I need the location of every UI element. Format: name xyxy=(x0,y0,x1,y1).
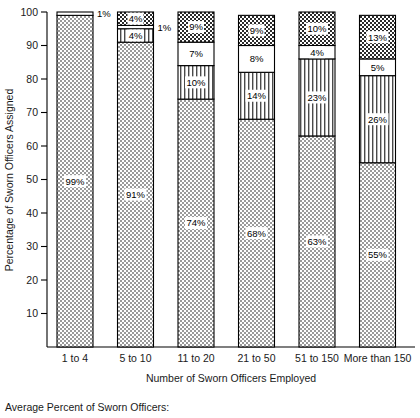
segment-value-label: 8% xyxy=(250,53,264,64)
x-category-label: 51 to 150 xyxy=(295,352,339,364)
segment-value-label: 23% xyxy=(307,92,327,103)
segment-value-label: 9% xyxy=(189,21,203,32)
x-category-label: 1 to 4 xyxy=(62,352,88,364)
segment-value-label: 55% xyxy=(368,249,388,260)
chart-svg: 102030405060708090100 99%1%91%4%1%4%74%1… xyxy=(0,0,420,418)
segment-value-label: 13% xyxy=(368,32,388,43)
segment-value-label-external: 1% xyxy=(97,8,111,19)
segment-value-label: 63% xyxy=(307,236,327,247)
y-tick-label: 80 xyxy=(26,73,38,85)
x-category-label: More than 150 xyxy=(344,352,412,364)
segment-value-label: 74% xyxy=(186,217,206,228)
segment-value-label: 26% xyxy=(368,114,388,125)
y-tick-label: 60 xyxy=(26,140,38,152)
y-tick-label: 10 xyxy=(26,307,38,319)
segment-value-label-external: 1% xyxy=(158,22,172,33)
segment-value-label: 68% xyxy=(247,228,267,239)
y-tick-label: 90 xyxy=(26,39,38,51)
chart-caption: Average Percent of Sworn Officers: xyxy=(5,401,169,413)
y-axis-title: Percentage of Sworn Officers Assigned xyxy=(3,89,15,272)
segment-value-label: 10% xyxy=(186,77,206,88)
y-axis-ticks: 102030405060708090100 xyxy=(20,6,47,320)
x-category-label: 5 to 10 xyxy=(119,352,151,364)
segment-value-label: 4% xyxy=(310,47,324,58)
x-axis-title: Number of Sworn Officers Employed xyxy=(146,372,316,384)
y-tick-label: 70 xyxy=(26,106,38,118)
y-tick-label: 30 xyxy=(26,240,38,252)
segment-value-label: 14% xyxy=(247,90,267,101)
bar-group: 99%1%91%4%1%4%74%10%7%9%68%14%8%9%63%23%… xyxy=(57,8,396,347)
x-category-label: 21 to 50 xyxy=(238,352,276,364)
stacked-bar-chart: 102030405060708090100 99%1%91%4%1%4%74%1… xyxy=(0,0,420,418)
y-tick-label: 20 xyxy=(26,274,38,286)
bar-segment xyxy=(57,12,93,15)
segment-value-label: 4% xyxy=(129,30,143,41)
x-category-label: 11 to 20 xyxy=(177,352,214,364)
x-axis-category-labels: 1 to 45 to 1011 to 2021 to 5051 to 150Mo… xyxy=(62,352,412,364)
segment-value-label: 5% xyxy=(371,62,385,73)
segment-value-label: 4% xyxy=(129,13,143,24)
segment-value-label: 99% xyxy=(65,176,85,187)
segment-value-label: 9% xyxy=(250,25,264,36)
segment-value-label: 91% xyxy=(126,189,146,200)
segment-value-label: 10% xyxy=(307,23,327,34)
y-tick-label: 40 xyxy=(26,207,38,219)
y-tick-label: 100 xyxy=(20,6,38,18)
y-tick-label: 50 xyxy=(26,173,38,185)
segment-value-label: 7% xyxy=(189,48,203,59)
